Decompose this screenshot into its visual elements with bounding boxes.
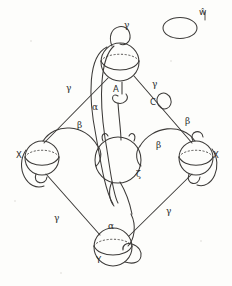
paper-speck xyxy=(170,60,172,62)
node-left xyxy=(25,141,59,183)
node-label-free-w: ŵ xyxy=(199,8,206,17)
edge-label-gamma-upper-right: γ xyxy=(152,80,157,89)
edge-label-gamma-upper-left: γ xyxy=(66,84,71,93)
free-ellipse xyxy=(163,18,197,39)
long-left-loop xyxy=(91,47,113,204)
edge-label-alpha-upper: α xyxy=(92,103,98,112)
edge-label-alpha-lower: α xyxy=(108,222,114,231)
edge-label-beta-right-upper: β xyxy=(185,117,190,126)
topology-diagram xyxy=(0,0,232,286)
edge-label-beta-left: β xyxy=(77,121,82,130)
beta-arc-right xyxy=(137,129,217,186)
edge-label-gamma-top: γ xyxy=(124,21,129,30)
edge-bottom-right xyxy=(129,174,192,236)
beta-arc-left xyxy=(21,128,100,187)
handle-label-C: C xyxy=(150,98,156,107)
edge-bottom-left xyxy=(46,174,100,235)
edge-top-left xyxy=(44,78,108,143)
edge-label-beta-center-right: β xyxy=(156,141,161,150)
paper-speck xyxy=(14,200,16,202)
figure-canvas: γ γ γ γ γ α α β β β ζ A C X X Y ŵ xyxy=(0,0,232,286)
node-top xyxy=(101,27,139,81)
edge-label-zeta-center: ζ xyxy=(136,170,141,179)
handle-label-A: A xyxy=(113,85,119,94)
edge-top-right xyxy=(134,76,192,143)
edge-label-gamma-lower-right: γ xyxy=(166,207,171,216)
edge-label-gamma-lower-left: γ xyxy=(54,214,59,223)
paper-speck xyxy=(200,240,202,242)
handle-C-glyph xyxy=(155,91,174,111)
paper-speck xyxy=(60,272,62,274)
node-right xyxy=(179,132,213,184)
node-label-left-x: X xyxy=(16,151,22,160)
node-label-bottom-y: Y xyxy=(96,256,101,265)
paper-speck xyxy=(30,40,32,42)
node-label-right-x: X xyxy=(213,151,219,160)
